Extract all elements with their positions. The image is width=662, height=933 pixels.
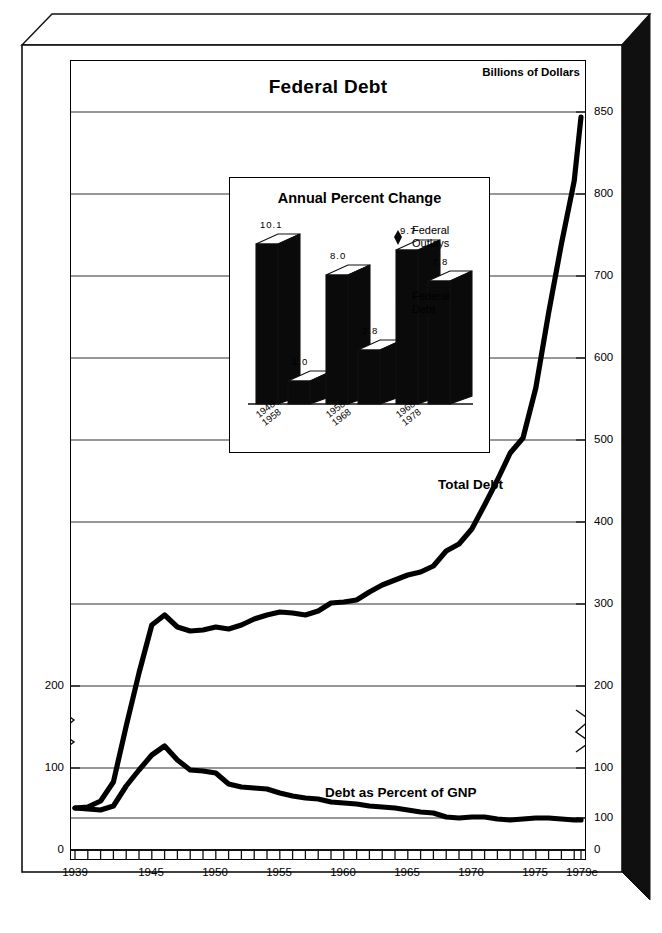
legend-outlays-line2: Outlays — [412, 237, 449, 249]
x-tick-label-1960: 1960 — [319, 866, 367, 878]
x-tick-label-1975: 1975 — [511, 866, 559, 878]
right-axis-tick-0-lower: 0 — [594, 844, 600, 856]
legend-outlays-line1: Federal — [412, 224, 449, 236]
right-axis-tick-100-lower: 100 — [594, 812, 613, 824]
right-axis-tick-400: 400 — [594, 516, 613, 528]
units-label: Billions of Dollars — [482, 66, 580, 78]
x-tick-label-1955: 1955 — [255, 866, 303, 878]
inset-chart: Annual Percent Change — [229, 177, 490, 453]
bar-value-outlays-1958-1968: 8.0 — [330, 250, 346, 261]
series-label-debt-percent-gnp: Debt as Percent of GNP — [325, 785, 477, 800]
bar-value-outlays-1948-1958: 10.1 — [260, 219, 283, 230]
left-axis-tick-0: 0 — [26, 844, 64, 856]
axis-break-icon — [70, 710, 586, 752]
x-tick-label-1950: 1950 — [191, 866, 239, 878]
bar-value-debt-1958-1968: 2.8 — [362, 325, 378, 336]
page-title: Federal Debt — [70, 76, 586, 98]
x-tick-label-1939: 1939 — [51, 866, 99, 878]
x-tick-label-1965: 1965 — [383, 866, 431, 878]
bar-value-debt-1948-1958: 1.0 — [292, 356, 308, 367]
left-axis-tick-200: 200 — [26, 680, 64, 692]
right-axis-tick-850: 850 — [594, 106, 613, 118]
chart-panel: Federal Debt Billions of Dollars Total D… — [70, 60, 586, 860]
left-axis-ticks — [70, 686, 80, 768]
right-axis-tick-600: 600 — [594, 352, 613, 364]
debt-percent-gnp-curve — [75, 746, 581, 820]
legend-debt-line1: Federal — [412, 290, 449, 302]
legend-label-federal-debt: Federal Debt — [412, 290, 449, 315]
right-axis-tick-800: 800 — [594, 188, 613, 200]
x-tick-label-1979e: 1979e — [556, 866, 608, 878]
right-axis-tick-100-upper: 100 — [594, 762, 613, 774]
x-tick-label-1945: 1945 — [127, 866, 175, 878]
right-axis-ticks — [576, 112, 586, 818]
right-axis-tick-500: 500 — [594, 434, 613, 446]
legend-label-federal-outlays: Federal Outlays — [412, 224, 449, 249]
right-axis-tick-700: 700 — [594, 270, 613, 282]
bar-value-debt-1968-1978: 7.8 — [432, 256, 448, 267]
legend-debt-line2: Debt — [412, 303, 435, 315]
x-tick-label-1970: 1970 — [447, 866, 495, 878]
left-axis-tick-100: 100 — [26, 762, 64, 774]
right-axis-tick-200: 200 — [594, 680, 613, 692]
right-axis-tick-300: 300 — [594, 598, 613, 610]
figure-root: Federal Debt Billions of Dollars Total D… — [0, 0, 662, 933]
series-label-total-debt: Total Debt — [438, 477, 503, 492]
x-ticks — [75, 850, 581, 860]
